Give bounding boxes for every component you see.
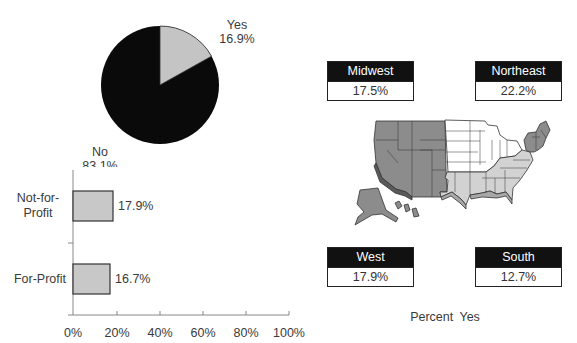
region-box-south: South 12.7% [475, 247, 562, 287]
map-caption: Percent Yes [395, 310, 495, 324]
pie-label-yes-value: 16.9% [217, 32, 257, 46]
x-tick-label: 100% [270, 326, 308, 340]
pie-label-yes-name: Yes [217, 18, 257, 32]
region-value-south: 12.7% [476, 267, 561, 286]
chart-graphics [0, 0, 577, 343]
pie-label-no: No 83.1% [80, 145, 120, 167]
bar-category-for-profit: For-Profit [4, 272, 66, 286]
region-name-west: West [328, 248, 413, 267]
region-value-northeast: 22.2% [476, 81, 561, 100]
pie-chart [101, 26, 219, 144]
bar-category-not-for-profit: Not-for- Profit [10, 191, 66, 221]
bar-category-line1: Not-for- [10, 191, 66, 206]
map-hawaii [395, 201, 419, 217]
region-box-west: West 17.9% [327, 247, 414, 287]
region-box-midwest: Midwest 17.5% [327, 61, 414, 101]
x-tick-label: 60% [188, 326, 218, 340]
region-name-midwest: Midwest [328, 62, 413, 81]
bar-value-for-profit: 16.7% [115, 272, 150, 286]
x-tick-label: 80% [231, 326, 261, 340]
bar-category-line2: Profit [10, 206, 66, 221]
x-tick-label: 20% [102, 326, 132, 340]
region-name-northeast: Northeast [476, 62, 561, 81]
region-value-west: 17.9% [328, 267, 413, 286]
pie-label-no-value: 83.1% [80, 159, 120, 167]
bar-value-not-for-profit: 17.9% [118, 199, 153, 213]
pie-label-yes: Yes 16.9% [217, 18, 257, 46]
pie-label-no-name: No [80, 145, 120, 159]
x-tick-label: 40% [145, 326, 175, 340]
x-tick-label: 0% [58, 326, 88, 340]
region-box-northeast: Northeast 22.2% [475, 61, 562, 101]
map-alaska [355, 188, 398, 225]
us-map [355, 120, 550, 225]
bar-for-profit [73, 264, 110, 294]
map-region-northeast [524, 121, 550, 152]
region-name-south: South [476, 248, 561, 267]
bar-not-for-profit [73, 191, 113, 221]
region-value-midwest: 17.5% [328, 81, 413, 100]
